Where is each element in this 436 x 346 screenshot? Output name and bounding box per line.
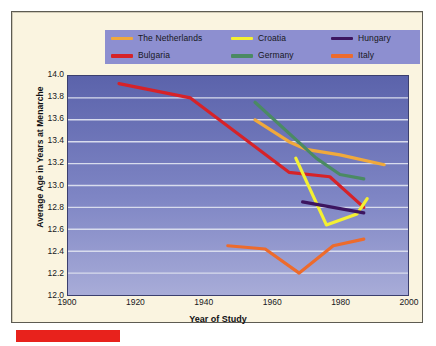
y-tick-label: 12.2	[24, 269, 64, 278]
legend-label-italy: Italy	[358, 51, 374, 60]
x-tick-label: 1920	[115, 298, 155, 307]
x-axis-title: Year of Study	[12, 314, 424, 324]
x-axis-ticks: 190019201940196019802000	[12, 298, 424, 312]
chart-page: The Netherlands Croatia Hungary Bulgaria…	[0, 0, 436, 346]
x-tick-label: 1980	[321, 298, 361, 307]
x-tick-label: 1900	[47, 298, 87, 307]
legend-item-italy: Italy	[331, 51, 426, 60]
legend-swatch-italy	[331, 54, 353, 58]
y-tick-label: 12.8	[24, 203, 64, 212]
x-tick-label: 1940	[184, 298, 224, 307]
y-axis-ticks: 12.012.212.412.612.813.013.213.413.613.8…	[22, 12, 64, 324]
legend-item-germany: Germany	[231, 51, 331, 60]
chart-legend: The Netherlands Croatia Hungary Bulgaria…	[105, 30, 420, 64]
y-tick-label: 13.0	[24, 181, 64, 190]
y-tick-label: 13.4	[24, 136, 64, 145]
legend-swatch-hungary	[331, 37, 353, 40]
legend-label-germany: Germany	[258, 51, 294, 60]
y-tick-label: 13.8	[24, 92, 64, 101]
legend-swatch-germany	[231, 54, 253, 58]
plot-area	[67, 75, 409, 296]
series-line-germany	[255, 102, 364, 179]
legend-item-netherlands: The Netherlands	[111, 34, 231, 43]
y-tick-label: 13.2	[24, 158, 64, 167]
series-line-italy	[228, 239, 364, 273]
plot-svg	[68, 76, 408, 295]
legend-label-hungary: Hungary	[358, 34, 391, 43]
legend-item-bulgaria: Bulgaria	[111, 51, 231, 60]
legend-label-bulgaria: Bulgaria	[138, 51, 170, 60]
x-tick-label: 1960	[252, 298, 292, 307]
legend-swatch-netherlands	[111, 37, 133, 40]
figure-frame: The Netherlands Croatia Hungary Bulgaria…	[11, 11, 423, 323]
legend-label-netherlands: The Netherlands	[138, 34, 202, 43]
accent-bar	[16, 330, 120, 342]
legend-item-hungary: Hungary	[331, 34, 426, 43]
legend-swatch-croatia	[231, 37, 253, 40]
legend-swatch-bulgaria	[111, 54, 133, 58]
series-line-bulgaria	[119, 84, 364, 208]
legend-item-croatia: Croatia	[231, 34, 331, 43]
y-tick-label: 12.4	[24, 247, 64, 256]
y-tick-label: 13.6	[24, 114, 64, 123]
y-tick-label: 12.6	[24, 225, 64, 234]
legend-label-croatia: Croatia	[258, 34, 286, 43]
x-tick-label: 2000	[389, 298, 429, 307]
y-tick-label: 14.0	[24, 70, 64, 79]
